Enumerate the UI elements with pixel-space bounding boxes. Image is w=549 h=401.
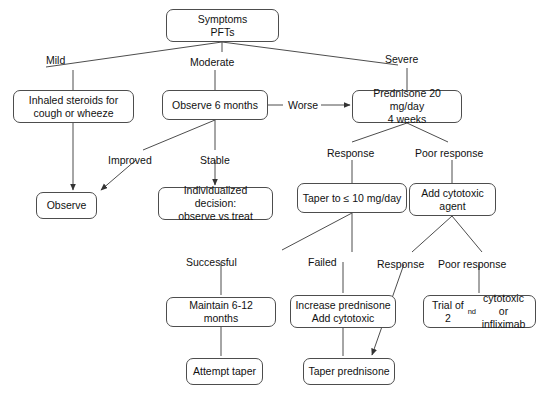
node-taper-prednisone[interactable]: Taper prednisone — [303, 358, 395, 385]
edge-label-response-1: Response — [327, 147, 374, 159]
edge-taper10-successful — [282, 213, 352, 250]
edge-observe6-improved — [143, 120, 215, 150]
node-maintain-6-12-months[interactable]: Maintain 6-12 months — [166, 297, 276, 327]
edge-label-failed: Failed — [308, 256, 337, 268]
edge-label-successful: Successful — [186, 256, 237, 268]
edge-label-response-2: Response — [377, 258, 424, 270]
node-observe[interactable]: Observe — [36, 192, 97, 219]
node-add-cytotoxic-agent[interactable]: Add cytotoxic agent — [409, 183, 496, 216]
node-observe-6-months[interactable]: Observe 6 months — [162, 90, 268, 120]
edge-symptoms-severe — [222, 42, 398, 65]
edge-label-moderate: Moderate — [190, 56, 234, 68]
node-symptoms[interactable]: Symptoms PFTs — [166, 9, 279, 42]
flowchart-canvas: Symptoms PFTs Inhaled steroids for cough… — [0, 0, 549, 401]
node-inhaled-steroids[interactable]: Inhaled steroids for cough or wheeze — [13, 90, 134, 123]
node-trial-2nd-cytotoxic[interactable]: Trial of 2nd cytotoxic or infliximab — [423, 295, 536, 328]
edge-addcyto-response — [412, 216, 452, 252]
edge-label-improved: Improved — [108, 154, 152, 166]
node-increase-prednisone[interactable]: Increase prednisone Add cytotoxic — [290, 295, 396, 328]
node-individualized-decision[interactable]: Individualized decision: observe vs trea… — [158, 187, 273, 220]
node-prednisone-20mg[interactable]: Prednisone 20 mg/day 4 weeks — [352, 90, 462, 123]
edge-label-poor-response-1: Poor response — [415, 147, 483, 159]
node-attempt-taper[interactable]: Attempt taper — [186, 358, 263, 385]
edge-label-poor-response-2: Poor response — [438, 258, 506, 270]
edge-addcyto-poorresponse — [452, 216, 482, 252]
edge-label-severe: Severe — [385, 53, 418, 65]
edge-label-mild: Mild — [46, 54, 65, 66]
node-taper-to-10mg[interactable]: Taper to ≤ 10 mg/day — [297, 183, 407, 213]
edge-label-worse: Worse — [288, 99, 318, 111]
edge-label-stable: Stable — [200, 154, 230, 166]
